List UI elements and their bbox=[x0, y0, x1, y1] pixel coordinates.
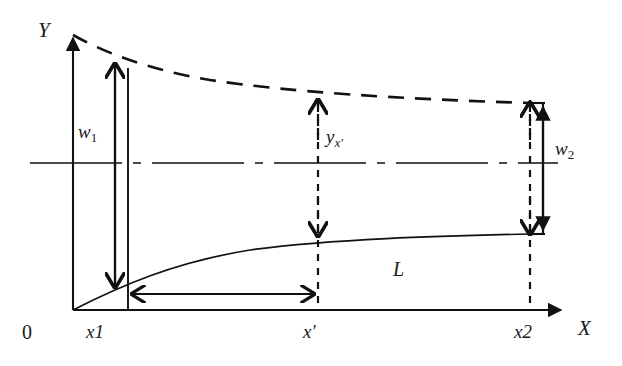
upper-boundary-curve bbox=[73, 35, 530, 103]
origin-label: 0 bbox=[22, 322, 32, 342]
measure-label-w2-sub: 2 bbox=[568, 147, 574, 162]
measure-label-yx: yx′ bbox=[326, 127, 343, 150]
tick-label-x2: x2 bbox=[514, 322, 532, 341]
measure-label-L: L bbox=[393, 259, 404, 279]
measure-label-w2-base: w bbox=[555, 138, 568, 159]
tick-label-x-prime: x′ bbox=[303, 322, 316, 341]
lower-boundary-curve bbox=[73, 234, 530, 310]
measure-label-w1-base: w bbox=[78, 121, 91, 142]
y-axis-label: Y bbox=[38, 20, 50, 41]
measure-label-w1-sub: 1 bbox=[91, 130, 97, 145]
diagram-canvas: Y X 0 w1 w2 yx′ L x1 x′ x2 bbox=[0, 0, 622, 366]
tick-label-x1: x1 bbox=[86, 322, 104, 341]
measure-label-w1: w1 bbox=[78, 122, 97, 145]
x-axis-label: X bbox=[578, 318, 591, 339]
measure-label-yx-sub: x′ bbox=[334, 135, 343, 150]
measure-w2-arrow bbox=[530, 103, 545, 234]
measure-label-w2: w2 bbox=[555, 139, 574, 162]
diagram-svg bbox=[0, 0, 622, 366]
